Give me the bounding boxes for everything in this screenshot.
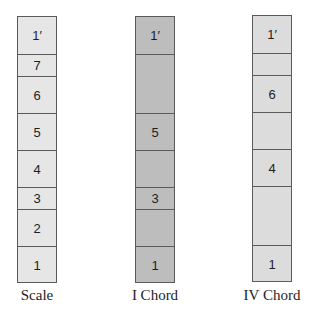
scale-cell-2: 2 (18, 209, 56, 248)
i-chord-cell-empty (136, 54, 174, 115)
scale-cell-7: 7 (18, 54, 56, 78)
scale-cell-1: 1 (18, 246, 56, 285)
iv-chord-cell-1: 1 (253, 245, 291, 284)
iv-chord-cell-1-octave: 1′ (253, 16, 291, 53)
i-chord-cell-empty (136, 150, 174, 189)
i-chord-cell-1: 1 (136, 246, 174, 285)
iv-chord-cell-4: 4 (253, 149, 291, 188)
scale-cell-3: 3 (18, 187, 56, 211)
i-chord-bar: 1′531 (135, 16, 175, 283)
iv-chord-bar: 1′641 (252, 15, 292, 282)
iv-chord-cell-empty (253, 186, 291, 247)
iv-chord-cell-empty (253, 112, 291, 151)
scale-bar: 1′7654321 (17, 16, 57, 283)
i-chord-cell-3: 3 (136, 187, 174, 211)
scale-label: Scale (0, 287, 87, 304)
i-chord-cell-5: 5 (136, 113, 174, 152)
iv-chord-cell-empty (253, 53, 291, 77)
i-chord-cell-empty (136, 209, 174, 248)
iv-chord-label: IV Chord (222, 287, 320, 304)
iv-chord-cell-6: 6 (253, 75, 291, 114)
scale-cell-4: 4 (18, 150, 56, 189)
scale-cell-5: 5 (18, 113, 56, 152)
scale-cell-6: 6 (18, 76, 56, 115)
i-chord-cell-1-octave: 1′ (136, 17, 174, 54)
scale-cell-1-octave: 1′ (18, 17, 56, 54)
i-chord-label: I Chord (105, 287, 205, 304)
